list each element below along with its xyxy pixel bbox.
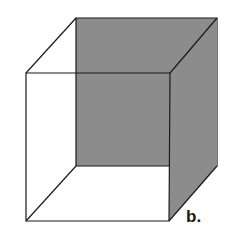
edge-top-left <box>26 18 76 73</box>
necker-cube-diagram: b. <box>0 0 227 228</box>
edge-bottom-left <box>26 166 76 221</box>
figure-label: b. <box>186 207 201 226</box>
